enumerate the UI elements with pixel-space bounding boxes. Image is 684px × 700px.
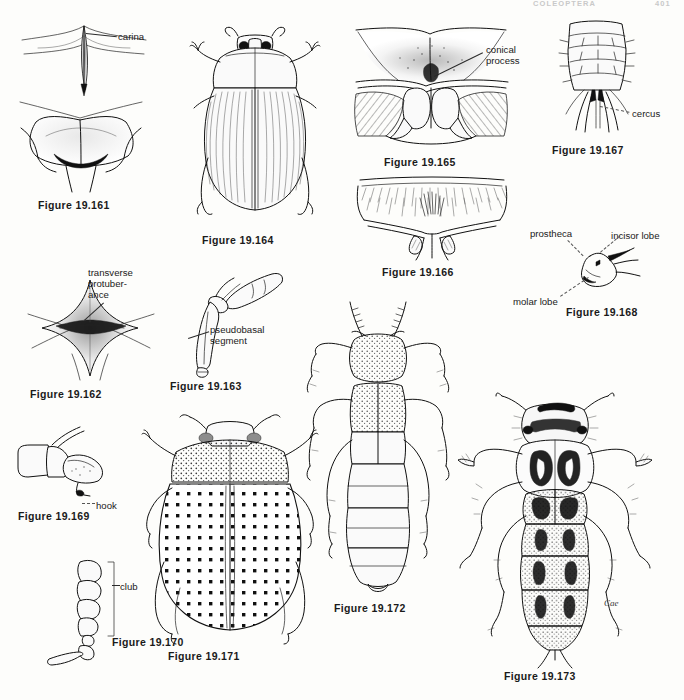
caption-19-171: Figure 19.171 <box>168 650 240 662</box>
figure-19-161: Figure 19.161 <box>18 18 158 193</box>
artist-monogram: Cae <box>604 598 619 608</box>
figure-19-172: Figure 19.172 <box>296 300 476 600</box>
label-conical-process-line1: conical <box>486 44 516 56</box>
label-conical-process-line2: process <box>486 55 520 67</box>
label-transverse-line2: protuber- <box>88 278 127 290</box>
running-head-title: COLEOPTERA <box>533 0 596 8</box>
figure-19-173: Figure 19.173 <box>452 388 672 668</box>
figure-19-165: Figure 19.165 <box>352 24 512 149</box>
label-pseudobasal-line1: pseudobasal <box>210 324 264 336</box>
figure-19-167: Figure 19.167 <box>548 20 648 140</box>
caption-19-167: Figure 19.167 <box>552 144 624 156</box>
figure-19-166: Figure 19.166 <box>352 176 512 261</box>
figure-19-171: Figure 19.171 <box>140 412 320 647</box>
label-club: club <box>120 581 138 593</box>
running-head-page-number: 401 <box>655 0 671 8</box>
label-transverse-line3: ance <box>88 289 109 301</box>
label-prostheca: prostheca <box>530 228 572 240</box>
figure-19-169: Figure 19.169 <box>14 425 124 505</box>
caption-19-173: Figure 19.173 <box>504 670 576 682</box>
caption-19-165: Figure 19.165 <box>384 156 456 168</box>
label-cercus: cercus <box>632 108 660 120</box>
prosternum-view <box>20 102 142 192</box>
caption-19-166: Figure 19.166 <box>382 266 454 278</box>
figure-19-163: Figure 19.163 <box>160 268 290 378</box>
label-hook: hook <box>96 500 117 512</box>
caption-19-168: Figure 19.168 <box>566 306 638 318</box>
caption-19-162: Figure 19.162 <box>30 388 102 400</box>
caption-19-161: Figure 19.161 <box>38 199 110 211</box>
plate-page: COLEOPTERA 401 <box>0 0 684 700</box>
figure-19-164: Figure 19.164 <box>180 22 330 227</box>
caption-19-163: Figure 19.163 <box>170 380 242 392</box>
label-molar-lobe: molar lobe <box>513 296 558 308</box>
label-pseudobasal-line2: segment <box>210 335 247 347</box>
leader-club <box>112 585 120 586</box>
caption-19-169: Figure 19.169 <box>18 510 90 522</box>
label-transverse-line1: transverse <box>88 267 133 279</box>
leader-hook <box>82 503 95 504</box>
label-carina: carina <box>118 31 144 43</box>
caption-19-164: Figure 19.164 <box>202 234 274 246</box>
caption-19-172: Figure 19.172 <box>334 602 406 614</box>
